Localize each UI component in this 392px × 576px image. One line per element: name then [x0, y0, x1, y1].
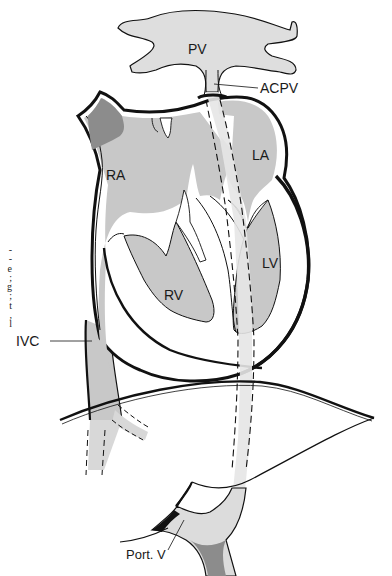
label-ra: RA — [106, 167, 126, 183]
label-acpv: ACPV — [260, 80, 299, 96]
label-ivc: IVC — [16, 333, 39, 349]
label-lv: LV — [262, 255, 279, 271]
label-pv: PV — [188, 41, 207, 57]
heart-diagram: PV ACPV RA LA LV RV IVC Port. V — [0, 0, 392, 576]
label-rv: RV — [164, 287, 184, 303]
label-port-v: Port. V — [126, 547, 166, 562]
label-la: LA — [252, 147, 270, 163]
heart — [78, 92, 309, 381]
